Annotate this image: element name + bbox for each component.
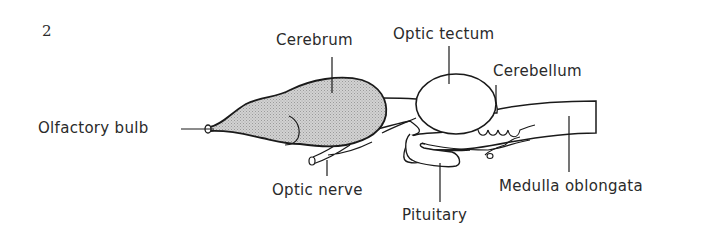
label-olfactory-bulb: Olfactory bulb bbox=[38, 119, 148, 137]
label-optic-nerve: Optic nerve bbox=[272, 181, 363, 199]
label-optic-tectum: Optic tectum bbox=[393, 25, 494, 43]
label-cerebellum: Cerebellum bbox=[493, 62, 582, 80]
label-medulla-oblongata: Medulla oblongata bbox=[499, 177, 643, 195]
optic-tectum-shape bbox=[416, 74, 496, 134]
label-pituitary: Pituitary bbox=[402, 206, 467, 224]
label-cerebrum: Cerebrum bbox=[276, 31, 353, 49]
